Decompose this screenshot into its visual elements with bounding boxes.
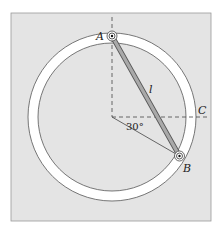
label-C: C bbox=[198, 104, 207, 117]
label-angle: 30° bbox=[126, 121, 144, 132]
pin-B-dot bbox=[178, 155, 180, 157]
pin-A-dot bbox=[111, 35, 113, 37]
ring-rod-diagram: A B C l 30° bbox=[0, 0, 223, 233]
label-B: B bbox=[182, 162, 191, 175]
label-rod-length: l bbox=[149, 83, 153, 96]
label-A: A bbox=[95, 30, 104, 43]
